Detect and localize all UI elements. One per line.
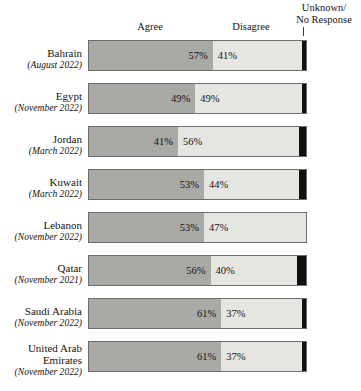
country-name: Bahrain — [0, 46, 82, 58]
column-header-unknown-no-response: Unknown/ No Response — [288, 2, 360, 26]
chart-row: Lebanon(November 2022)53%47% — [0, 208, 361, 251]
row-label: United Arab Emirates(November 2022) — [0, 341, 82, 376]
bar-segment-disagree: 37% — [221, 299, 301, 328]
bar-value-agree: 49% — [171, 93, 195, 104]
bar-segment-disagree: 41% — [213, 41, 302, 70]
bar-value-agree: 56% — [186, 265, 210, 276]
stacked-bar: 41%56% — [88, 126, 307, 157]
column-header-agree: Agree — [110, 21, 190, 33]
row-label: Kuwait(March 2022) — [0, 175, 82, 198]
chart-row: United Arab Emirates(November 2022)61%37… — [0, 337, 361, 380]
bar-segment-agree: 57% — [89, 41, 213, 70]
row-label: Jordan(March 2022) — [0, 132, 82, 155]
country-name: United Arab Emirates — [0, 341, 82, 365]
bar-segment-disagree: 56% — [178, 127, 300, 156]
column-header-disagree: Disagree — [215, 21, 287, 33]
chart-row: Kuwait(March 2022)53%44% — [0, 165, 361, 208]
bar-segment-unknown-no-response — [302, 84, 306, 113]
bar-value-agree: 61% — [197, 308, 221, 319]
stacked-bar: 61%37% — [88, 341, 307, 372]
survey-date: (November 2022) — [0, 365, 82, 376]
survey-date: (November 2022) — [0, 316, 82, 327]
bar-segment-unknown-no-response — [302, 299, 306, 328]
bar-value-disagree: 41% — [213, 50, 237, 61]
chart-rows: Bahrain(August 2022)57%41%Egypt(November… — [0, 36, 361, 380]
bar-segment-unknown-no-response — [302, 342, 306, 371]
bar-segment-agree: 61% — [89, 342, 221, 371]
stacked-bar-chart: Agree Disagree Unknown/ No Response Bahr… — [0, 0, 361, 391]
stacked-bar: 53%47% — [88, 212, 307, 243]
bar-segment-agree: 56% — [89, 256, 211, 285]
bar-value-agree: 53% — [180, 222, 204, 233]
country-name: Egypt — [0, 89, 82, 101]
bar-segment-agree: 41% — [89, 127, 178, 156]
bar-value-disagree: 44% — [204, 179, 228, 190]
chart-row: Egypt(November 2022)49%49% — [0, 79, 361, 122]
survey-date: (November 2022) — [0, 101, 82, 112]
row-label: Bahrain(August 2022) — [0, 46, 82, 69]
survey-date: (November 2021) — [0, 273, 82, 284]
stacked-bar: 57%41% — [88, 40, 307, 71]
bar-value-disagree: 40% — [211, 265, 235, 276]
row-label: Egypt(November 2022) — [0, 89, 82, 112]
bar-segment-agree: 53% — [89, 213, 204, 242]
chart-row: Jordan(March 2022)41%56% — [0, 122, 361, 165]
bar-segment-unknown-no-response — [299, 170, 306, 199]
bar-value-agree: 53% — [180, 179, 204, 190]
row-label: Saudi Arabia(November 2022) — [0, 304, 82, 327]
chart-row: Qatar(November 2021)56%40% — [0, 251, 361, 294]
stacked-bar: 61%37% — [88, 298, 307, 329]
stacked-bar: 53%44% — [88, 169, 307, 200]
bar-segment-unknown-no-response — [297, 256, 306, 285]
stacked-bar: 56%40% — [88, 255, 307, 286]
bar-segment-unknown-no-response — [302, 41, 306, 70]
survey-date: (August 2022) — [0, 58, 82, 69]
bar-segment-disagree: 47% — [204, 213, 306, 242]
survey-date: (March 2022) — [0, 144, 82, 155]
survey-date: (November 2022) — [0, 230, 82, 241]
bar-value-disagree: 37% — [221, 308, 245, 319]
country-name: Lebanon — [0, 218, 82, 230]
bar-segment-disagree: 40% — [211, 256, 298, 285]
bar-value-disagree: 56% — [178, 136, 202, 147]
bar-segment-disagree: 49% — [195, 84, 301, 113]
bar-value-agree: 61% — [197, 351, 221, 362]
stacked-bar: 49%49% — [88, 83, 307, 114]
bar-segment-unknown-no-response — [299, 127, 306, 156]
bar-segment-disagree: 44% — [204, 170, 299, 199]
country-name: Kuwait — [0, 175, 82, 187]
bar-value-disagree: 49% — [195, 93, 219, 104]
bar-segment-disagree: 37% — [221, 342, 301, 371]
bar-segment-agree: 53% — [89, 170, 204, 199]
leader-line-icon — [303, 27, 304, 36]
survey-date: (March 2022) — [0, 187, 82, 198]
chart-row: Bahrain(August 2022)57%41% — [0, 36, 361, 79]
bar-segment-agree: 61% — [89, 299, 221, 328]
chart-row: Saudi Arabia(November 2022)61%37% — [0, 294, 361, 337]
bar-segment-agree: 49% — [89, 84, 195, 113]
country-name: Jordan — [0, 132, 82, 144]
country-name: Qatar — [0, 261, 82, 273]
bar-value-disagree: 47% — [204, 222, 228, 233]
country-name: Saudi Arabia — [0, 304, 82, 316]
column-header-row: Agree Disagree Unknown/ No Response — [0, 0, 361, 36]
bar-value-disagree: 37% — [221, 351, 245, 362]
bar-value-agree: 57% — [188, 50, 212, 61]
bar-value-agree: 41% — [154, 136, 178, 147]
row-label: Lebanon(November 2022) — [0, 218, 82, 241]
row-label: Qatar(November 2021) — [0, 261, 82, 284]
